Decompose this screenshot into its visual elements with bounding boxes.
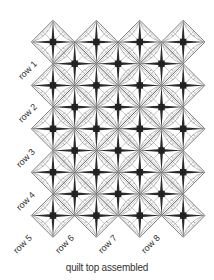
- row-label-2: row 2: [16, 102, 39, 125]
- row-label-3: row 3: [14, 147, 37, 170]
- row-label-5: row 5: [11, 233, 34, 256]
- row-label-6: row 6: [53, 233, 76, 256]
- diagram-caption: quilt top assembled: [0, 262, 214, 273]
- row-label-4: row 4: [14, 190, 37, 213]
- row-label-8: row 8: [139, 233, 162, 256]
- quilt-diagram: row 1 row 2 row 3 row 4 row 5 row 6 row …: [0, 0, 214, 280]
- row-label-7: row 7: [96, 233, 119, 256]
- quilt-blocks: [31, 20, 205, 237]
- row-label-1: row 1: [16, 59, 39, 82]
